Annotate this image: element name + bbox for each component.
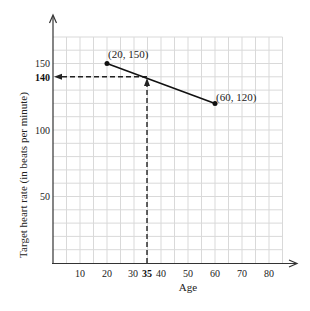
grid	[53, 37, 283, 263]
y-tick-150: 150	[35, 58, 50, 69]
y-tick-140: 140	[35, 72, 50, 83]
x-tick-80: 80	[264, 268, 274, 279]
point-label-2: (60, 120)	[216, 91, 257, 104]
y-tick-100: 100	[35, 125, 50, 136]
data-point-1	[105, 61, 110, 66]
chart-canvas: (20, 150) (60, 120) 10 20 30 35 40 50 60…	[0, 0, 310, 311]
x-tick-labels: 10 20 30 35 40 50 60 70 80	[75, 268, 274, 279]
x-tick-20: 20	[102, 268, 112, 279]
x-axis-label: Age	[179, 281, 197, 293]
y-axis-label: Target heart rate (in beats per minute)	[17, 92, 30, 258]
axes	[50, 15, 298, 267]
point-label-1: (20, 150)	[108, 48, 149, 61]
y-tick-labels: 150 140 100 50	[35, 58, 50, 202]
x-tick-35: 35	[142, 268, 152, 279]
x-tick-10: 10	[75, 268, 85, 279]
x-tick-50: 50	[183, 268, 193, 279]
x-tick-70: 70	[237, 268, 247, 279]
x-tick-60: 60	[210, 268, 220, 279]
x-tick-30: 30	[128, 268, 138, 279]
y-tick-50: 50	[40, 191, 50, 202]
left-arrowhead-icon	[54, 74, 62, 80]
x-tick-40: 40	[156, 268, 166, 279]
